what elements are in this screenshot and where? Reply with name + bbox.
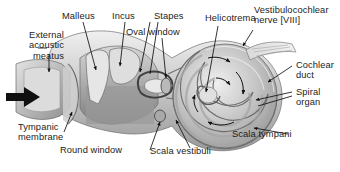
round-window-shape bbox=[155, 110, 166, 122]
label-malleus: Malleus bbox=[62, 11, 95, 21]
label-stapes: Stapes bbox=[154, 11, 184, 21]
label-scala-tympani: Scala tympani bbox=[232, 129, 292, 139]
label-tympanic-membrane: Tympanic membrane bbox=[18, 122, 88, 143]
label-helicotrema: Helicotrema bbox=[205, 13, 256, 23]
label-scala-vestibuli: Scala vestibuli bbox=[150, 146, 211, 156]
label-external-acoustic-meatus: External acoustic meatus bbox=[2, 30, 64, 61]
ear-anatomy-diagram: External acoustic meatus Malleus Incus S… bbox=[0, 0, 340, 172]
label-oval-window: Oval window bbox=[126, 27, 180, 37]
label-spiral-organ: Spiral organ bbox=[296, 87, 320, 108]
label-vestibulocochlear-nerve: Vestibulocochlear nerve [VIII] bbox=[254, 5, 340, 26]
vestibulocochlear-nerve-shape bbox=[246, 42, 296, 60]
label-cochlear-duct: Cochlear duct bbox=[296, 60, 334, 81]
label-round-window: Round window bbox=[60, 145, 122, 155]
label-incus: Incus bbox=[112, 11, 135, 21]
oval-window-shape bbox=[161, 78, 171, 94]
